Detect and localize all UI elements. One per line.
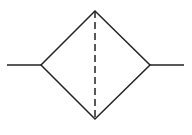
filter-symbol-diagram [0, 0, 192, 135]
